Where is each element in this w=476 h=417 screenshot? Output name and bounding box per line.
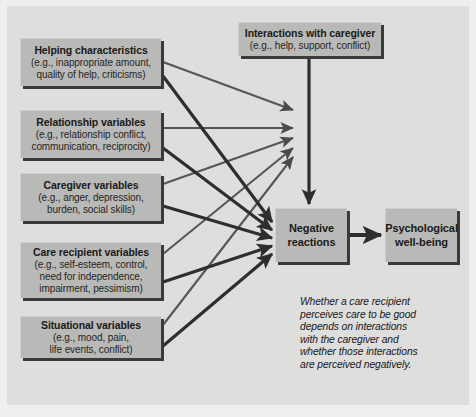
diagram-figure: Helping characteristics (e.g., inappropr… bbox=[0, 0, 476, 417]
node-title: well-being bbox=[395, 236, 448, 250]
node-title: Helping characteristics bbox=[34, 44, 147, 57]
node-detail-line: (e.g., relationship conflict, bbox=[36, 129, 147, 141]
node-title: Care recipient variables bbox=[33, 246, 149, 259]
node-detail-line: (e.g., self-esteem, control, bbox=[35, 259, 148, 271]
caption-line: with the caregiver and bbox=[300, 334, 460, 347]
node-title: Situational variables bbox=[41, 319, 141, 332]
node-detail-line: communication, reciprocity) bbox=[31, 141, 150, 153]
caption-line: are perceived negatively. bbox=[300, 359, 460, 372]
node-psychological-wellbeing[interactable]: Psychological well-being bbox=[385, 208, 457, 262]
node-detail-line: burden, social skills) bbox=[47, 204, 135, 216]
caption-line: Whether a care recipient bbox=[300, 296, 460, 309]
node-detail-line: impairment, pessimism) bbox=[39, 283, 142, 295]
node-title: Psychological bbox=[385, 222, 458, 236]
node-helping-characteristics[interactable]: Helping characteristics (e.g., inappropr… bbox=[20, 38, 161, 86]
node-situational-variables[interactable]: Situational variables (e.g., mood, pain,… bbox=[20, 316, 161, 358]
caption-line: whether those interactions bbox=[300, 346, 460, 359]
caption-line: depends on interactions bbox=[300, 321, 460, 334]
node-title: Negative bbox=[289, 222, 334, 236]
caption-line: perceives care to be good bbox=[300, 309, 460, 322]
node-detail-line: need for independence, bbox=[40, 271, 143, 283]
node-detail-line: (e.g., mood, pain, bbox=[53, 332, 129, 344]
node-detail-line: (e.g., anger, depression, bbox=[38, 192, 143, 204]
node-title: Relationship variables bbox=[36, 116, 145, 129]
node-negative-reactions[interactable]: Negative reactions bbox=[275, 208, 347, 262]
node-detail-line: life events, conflict) bbox=[50, 344, 133, 356]
node-care-recipient-variables[interactable]: Care recipient variables (e.g., self-est… bbox=[20, 242, 161, 298]
node-title: reactions bbox=[287, 236, 335, 250]
node-interactions-with-caregiver[interactable]: Interactions with caregiver (e.g., help,… bbox=[238, 22, 381, 56]
node-detail-line: quality of help, criticisms) bbox=[37, 69, 146, 81]
node-detail-line: (e.g., inappropriate amount, bbox=[31, 57, 151, 69]
node-detail-line: (e.g., help, support, conflict) bbox=[250, 40, 370, 52]
diagram-caption: Whether a care recipient perceives care … bbox=[300, 296, 460, 372]
node-relationship-variables[interactable]: Relationship variables (e.g., relationsh… bbox=[20, 110, 161, 158]
node-title: Caregiver variables bbox=[44, 179, 139, 192]
node-title: Interactions with caregiver bbox=[245, 27, 375, 40]
node-caregiver-variables[interactable]: Caregiver variables (e.g., anger, depres… bbox=[20, 173, 161, 221]
